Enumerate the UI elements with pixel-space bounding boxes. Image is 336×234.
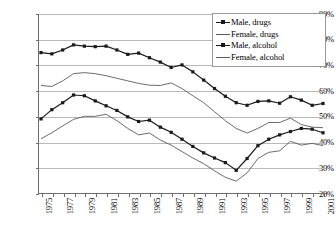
x-tick-mark	[53, 194, 54, 197]
x-axis-tick-label: 1979	[88, 198, 97, 214]
x-axis-tick-label: 1993	[240, 198, 249, 214]
x-tick-mark	[85, 194, 86, 197]
legend-item-label: Male, drugs	[231, 18, 271, 27]
gridline	[39, 143, 326, 144]
gridline	[39, 91, 326, 92]
y-tick-mark	[36, 168, 39, 169]
x-tick-mark	[216, 194, 217, 197]
x-axis-tick-label: 1991	[218, 198, 227, 214]
legend-swatch-icon	[215, 40, 231, 51]
legend-item-label: Female, alcohol	[231, 53, 284, 62]
x-tick-mark	[42, 194, 43, 197]
legend-swatch-icon	[215, 52, 231, 63]
x-tick-mark	[64, 194, 65, 197]
x-axis-tick-label: 1977	[66, 198, 75, 214]
gridline	[39, 168, 326, 169]
chart-legend: Male, drugsFemale, drugsMale, alcoholFem…	[212, 13, 326, 67]
x-axis-tick-label: 2001	[327, 198, 336, 214]
x-axis-tick-label: 1981	[110, 198, 119, 214]
x-tick-mark	[183, 194, 184, 197]
x-tick-mark	[259, 194, 260, 197]
legend-swatch-icon	[215, 17, 231, 28]
x-axis-tick-label: 1983	[131, 198, 140, 214]
gridline	[39, 117, 326, 118]
legend-item: Male, alcohol	[215, 40, 322, 52]
x-tick-mark	[205, 194, 206, 197]
x-axis-tick-label: 1975	[45, 198, 54, 214]
y-tick-mark	[36, 14, 39, 15]
y-tick-mark	[36, 194, 39, 195]
y-tick-mark	[36, 91, 39, 92]
x-tick-mark	[281, 194, 282, 197]
legend-item-label: Male, alcohol	[231, 41, 277, 50]
y-tick-mark	[36, 117, 39, 118]
legend-item: Female, alcohol	[215, 52, 322, 64]
legend-item: Female, drugs	[215, 29, 322, 41]
legend-item-label: Female, drugs	[231, 30, 278, 39]
x-tick-mark	[226, 194, 227, 197]
x-tick-mark	[313, 194, 314, 197]
x-axis-tick-label: 1997	[283, 198, 292, 214]
y-tick-mark	[36, 40, 39, 41]
x-tick-mark	[140, 194, 141, 197]
x-tick-mark	[291, 194, 292, 197]
x-tick-mark	[172, 194, 173, 197]
x-axis-tick-label: 1995	[261, 198, 270, 214]
x-tick-mark	[96, 194, 97, 197]
x-tick-mark	[75, 194, 76, 197]
y-tick-mark	[36, 143, 39, 144]
x-tick-mark	[150, 194, 151, 197]
x-tick-mark	[302, 194, 303, 197]
x-tick-mark	[270, 194, 271, 197]
x-axis-tick-label: 1999	[305, 198, 314, 214]
x-tick-mark	[248, 194, 249, 197]
x-axis-tick-label: 1985	[153, 198, 162, 214]
x-tick-mark	[194, 194, 195, 197]
y-tick-mark	[36, 65, 39, 66]
x-axis-tick-label: 1987	[175, 198, 184, 214]
x-tick-mark	[161, 194, 162, 197]
legend-swatch-icon	[215, 29, 231, 40]
legend-item: Male, drugs	[215, 17, 322, 29]
x-axis-tick-label: 1989	[196, 198, 205, 214]
x-tick-mark	[237, 194, 238, 197]
x-tick-mark	[324, 194, 325, 197]
x-tick-mark	[107, 194, 108, 197]
x-tick-mark	[129, 194, 130, 197]
x-tick-mark	[118, 194, 119, 197]
